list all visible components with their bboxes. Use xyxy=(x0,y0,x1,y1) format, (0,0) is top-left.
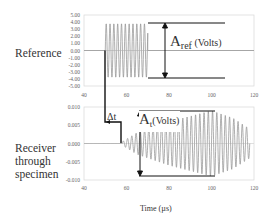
tick-label: -4.00 xyxy=(69,76,81,82)
tick-label: -0.010 xyxy=(66,177,80,183)
top-x-axis-ticks: 406080100120 xyxy=(81,92,258,98)
tick-label: -3.00 xyxy=(69,69,81,75)
tick-label: 1.00 xyxy=(70,40,80,46)
tick-label: 40 xyxy=(81,185,87,191)
tick-label: 80 xyxy=(166,185,172,191)
aref-unit: (Volts) xyxy=(192,37,222,48)
tick-label: 100 xyxy=(207,92,216,98)
receiver-label: Receiver through specimen xyxy=(15,142,58,181)
reference-label: Reference xyxy=(15,47,62,60)
tick-label: 100 xyxy=(207,185,216,191)
at-label: At(Volts) xyxy=(139,111,180,132)
aref-label: Aref (Volts) xyxy=(170,33,222,54)
receiver-label-line2: through xyxy=(15,155,58,168)
bottom-x-axis-ticks: 406080100120 xyxy=(81,185,258,191)
at-main: A xyxy=(139,111,150,127)
aref-main: A xyxy=(170,33,181,49)
tick-label: -5.00 xyxy=(69,83,81,89)
tick-label: 0.00 xyxy=(70,48,80,54)
tick-label: 2.00 xyxy=(70,33,80,39)
tick-label: -1.00 xyxy=(69,55,81,61)
tick-label: 60 xyxy=(124,185,130,191)
tick-label: 60 xyxy=(124,92,130,98)
tick-label: 4.00 xyxy=(70,19,80,25)
tick-label: 120 xyxy=(250,92,259,98)
tick-label: 120 xyxy=(250,185,259,191)
receiver-label-line3: specimen xyxy=(15,168,58,181)
top-y-axis-ticks: 5.004.003.002.001.000.00-1.00-2.00-3.00-… xyxy=(69,12,81,89)
tick-label: 0.010 xyxy=(68,104,81,110)
tick-label: 80 xyxy=(166,92,172,98)
bottom-y-axis-ticks: 0.0100.0050.000-0.005-0.010 xyxy=(66,104,80,183)
tick-label: 5.00 xyxy=(70,12,80,18)
tick-label: 0.005 xyxy=(68,122,81,128)
at-unit: (Volts) xyxy=(152,115,179,126)
aref-sub: ref xyxy=(181,40,192,51)
tick-label: 3.00 xyxy=(70,26,80,32)
tick-label: 40 xyxy=(81,92,87,98)
delta-t-label: Δt xyxy=(107,110,116,123)
tick-label: 0.000 xyxy=(68,141,81,147)
tick-label: -2.00 xyxy=(69,62,81,68)
tick-label: -0.005 xyxy=(66,159,80,165)
x-axis-title: Time (µs) xyxy=(140,202,172,215)
chart-canvas: 5.004.003.002.001.000.00-1.00-2.00-3.00-… xyxy=(0,0,274,220)
receiver-label-line1: Receiver xyxy=(15,142,58,155)
